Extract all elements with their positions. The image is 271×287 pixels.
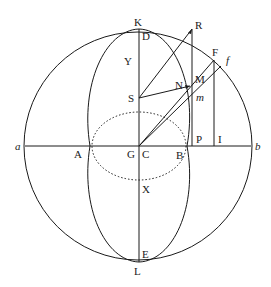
left-oval-upper [88,29,139,146]
label-f: F [212,47,218,58]
label-d: D [142,31,150,42]
label-g: G [127,149,135,160]
label-r: R [195,20,202,31]
label-p: P [196,134,202,145]
label-s: S [128,93,134,104]
label-a-small: a [15,141,21,152]
label-a: A [74,149,82,160]
label-m: M [195,74,205,85]
label-e: E [142,249,149,260]
label-f-small: f [226,55,229,66]
line-c-f-lower [139,66,221,146]
label-b-small: b [255,141,261,152]
label-b: B [176,150,183,161]
label-n: N [175,80,183,91]
diagram-figure [0,0,271,287]
right-oval-lower [139,146,190,262]
left-oval-lower [88,146,139,262]
label-k: K [134,17,142,28]
label-c: C [142,149,149,160]
label-y: Y [124,56,132,67]
label-x: X [142,184,150,195]
label-l: L [134,266,141,277]
label-m-small: m [196,92,204,103]
diagram-canvas: K D R F f Y M N S m a A G C B P I b X E … [0,0,271,287]
label-i: I [218,134,222,145]
